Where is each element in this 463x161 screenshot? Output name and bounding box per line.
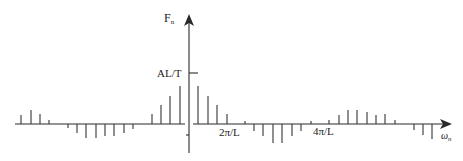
x-axis-label: ωn (441, 130, 452, 143)
amplitude-label: AL/T (157, 67, 182, 79)
amplitude-annotation: AL/T (157, 67, 198, 79)
y-axis-label: Fn (164, 11, 175, 26)
y-axis: Fn (164, 11, 194, 153)
fourier-spectrum-diagram: ωn Fn AL/T 2π/L 4π/L (0, 0, 463, 161)
two-pi-over-l-label: 2π/L (219, 126, 240, 138)
four-pi-over-l-label: 4π/L (313, 125, 334, 137)
